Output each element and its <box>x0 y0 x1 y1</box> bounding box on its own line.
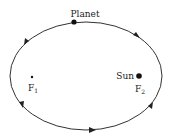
focus1-label: F1 <box>28 83 38 94</box>
focus2-label: F2 <box>135 84 145 95</box>
orbit-diagram: Planet F1 Sun F2 <box>0 0 172 138</box>
focus1-dot <box>31 76 33 78</box>
sun-label: Sun <box>116 71 134 81</box>
arrow-icon-lower-right <box>148 102 153 109</box>
sun-dot <box>136 73 142 79</box>
arrow-icon-top-right <box>133 32 140 38</box>
arrow-icon-bottom <box>89 127 96 133</box>
planet-label: Planet <box>70 9 99 19</box>
arrow-icon-upper-left <box>24 38 29 45</box>
planet-dot <box>71 19 76 24</box>
